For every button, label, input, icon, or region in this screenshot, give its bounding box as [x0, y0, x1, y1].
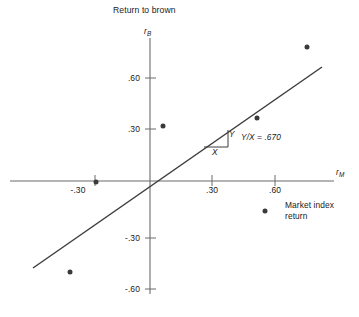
x-tick-label: .30: [195, 186, 229, 196]
x-tick-label: -.30: [61, 186, 95, 196]
x-axis-label: rM: [336, 168, 344, 178]
data-point: [263, 209, 268, 214]
data-point: [255, 116, 260, 121]
y-tick-label: .30: [106, 125, 140, 135]
slope-run-label: X: [212, 148, 218, 158]
chart-title: Return to brown: [113, 6, 176, 16]
chart-canvas: [0, 0, 359, 317]
slope-value-label: Y/X = .670: [241, 133, 281, 143]
y-axis-label: rB: [144, 27, 151, 37]
data-point: [161, 124, 166, 129]
y-tick-label: -.30: [106, 234, 140, 244]
y-tick-label: .60: [106, 74, 140, 84]
data-point: [305, 45, 310, 50]
y-axis-label-subscript: B: [147, 30, 151, 37]
data-point: [94, 180, 99, 185]
data-point: [68, 270, 73, 275]
market-index-return-note: Market index return: [285, 200, 355, 221]
y-tick-label: -.60: [106, 285, 140, 295]
x-axis-label-subscript: M: [339, 171, 344, 178]
figure-container: Return to brown rB rM .60 .30 -.30 -.60 …: [0, 0, 359, 317]
x-tick-label: .60: [258, 186, 292, 196]
regression-line: [33, 67, 322, 268]
slope-rise-label: Y: [229, 130, 235, 140]
